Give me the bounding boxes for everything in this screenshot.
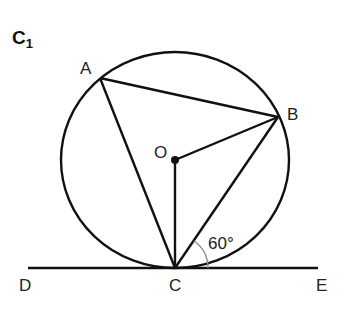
label-e: E — [316, 277, 327, 294]
chord-ac — [100, 78, 175, 268]
figure-title: C1 — [12, 28, 33, 50]
angle-label: 60° — [208, 235, 234, 252]
chord-ab — [100, 78, 278, 117]
label-d: D — [19, 277, 31, 294]
label-b: B — [287, 106, 298, 123]
label-c: C — [169, 277, 181, 294]
center-point-o — [171, 156, 179, 164]
label-o: O — [154, 144, 167, 161]
circle-geometry-figure — [0, 0, 344, 313]
label-a: A — [80, 60, 91, 77]
